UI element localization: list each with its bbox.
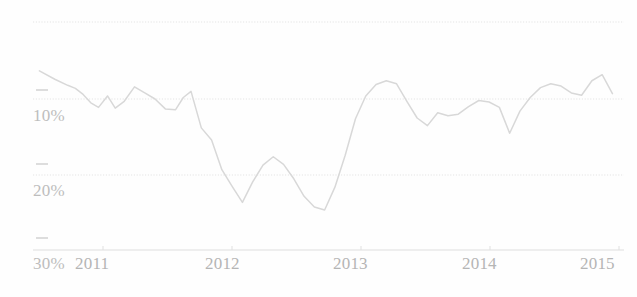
chart-container: 10% 20% 30% 2011 2012 2013 2014 2015	[0, 0, 637, 297]
x-tick-label-2014: 2014	[462, 254, 497, 274]
x-tick-label-2013: 2013	[333, 254, 368, 274]
x-tick-label-2015: 2015	[580, 254, 615, 274]
x-axis	[33, 246, 624, 250]
gridlines	[33, 22, 624, 175]
x-tick-label-2011: 2011	[75, 254, 109, 274]
x-tick-label-2012: 2012	[205, 254, 240, 274]
y-tick-label-10pct: 10%	[33, 106, 65, 126]
y-tick-label-30pct: 30%	[33, 254, 65, 274]
data-line-rate	[39, 71, 612, 210]
y-tick-label-20pct: 20%	[33, 181, 65, 201]
line-chart	[0, 0, 637, 297]
